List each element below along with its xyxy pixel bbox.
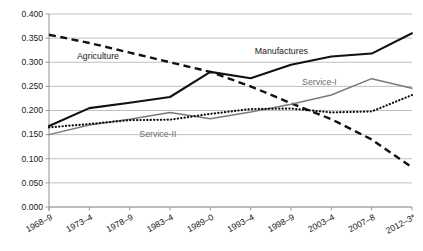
x-tick-label: 1998–9 <box>266 212 296 234</box>
annotation-service-i: Service-I <box>302 77 337 87</box>
y-tick-label: 0.000 <box>21 202 43 212</box>
x-tick-label: 2003–4 <box>306 212 336 234</box>
y-tick-label: 0.250 <box>21 81 43 91</box>
y-tick-label: 0.150 <box>21 129 43 139</box>
y-tick-label: 0.200 <box>21 105 43 115</box>
x-tick-label: 1973–4 <box>64 212 94 234</box>
y-tick-label: 0.300 <box>21 57 43 67</box>
chart-container: 0.0000.0500.1000.1500.2000.2500.3000.350… <box>0 0 423 251</box>
y-tick-label: 0.050 <box>21 178 43 188</box>
line-chart: 0.0000.0500.1000.1500.2000.2500.3000.350… <box>0 0 423 251</box>
x-axis: 1968–91973–41978–91983–41989–01993–41998… <box>24 207 418 236</box>
series-line-service-ii <box>49 95 412 127</box>
y-axis: 0.0000.0500.1000.1500.2000.2500.3000.350… <box>21 9 49 212</box>
x-tick-label: 2007–8 <box>347 212 377 234</box>
x-tick-label: 1983–4 <box>145 212 175 234</box>
y-tick-label: 0.400 <box>21 9 43 19</box>
x-tick-label: 2012–3* <box>384 212 418 236</box>
annotation-agriculture: Agriculture <box>77 51 119 61</box>
annotation-service-ii: Service-II <box>139 129 176 139</box>
series-annotations: AgricultureManufacturesService-IService-… <box>77 46 337 139</box>
x-tick-label: 1989–0 <box>185 212 215 234</box>
gridlines <box>49 14 412 207</box>
x-tick-label: 1968–9 <box>24 212 54 234</box>
y-tick-label: 0.350 <box>21 33 43 43</box>
x-tick-label: 1978–9 <box>105 212 135 234</box>
y-tick-label: 0.100 <box>21 154 43 164</box>
x-tick-label: 1993–4 <box>226 212 256 234</box>
annotation-manufactures: Manufactures <box>255 46 309 56</box>
